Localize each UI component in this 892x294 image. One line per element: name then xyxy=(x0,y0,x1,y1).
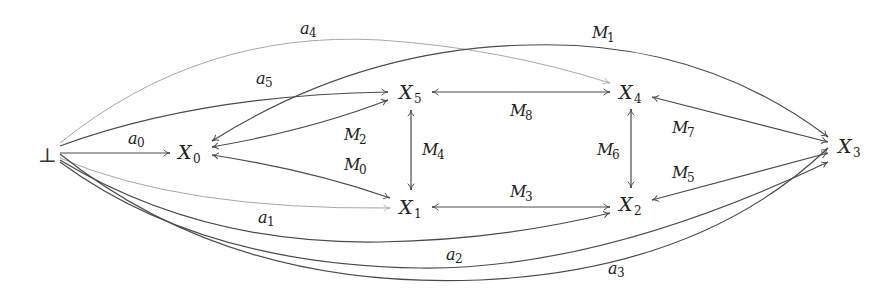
edge-a4 xyxy=(60,39,610,143)
label-a1: a 1 xyxy=(258,208,275,229)
svg-text:5: 5 xyxy=(414,92,422,106)
svg-text:4: 4 xyxy=(309,26,317,40)
svg-text:X: X xyxy=(836,135,853,157)
svg-text:0: 0 xyxy=(137,136,145,150)
svg-text:0: 0 xyxy=(193,152,201,166)
node-X2: X 2 xyxy=(617,193,642,218)
label-a2: a 2 xyxy=(446,245,463,266)
node-X0: X 0 xyxy=(176,141,201,166)
svg-text:4: 4 xyxy=(437,148,445,162)
node-X5: X 5 xyxy=(397,81,422,106)
svg-text:3: 3 xyxy=(525,190,533,204)
svg-text:1: 1 xyxy=(414,207,422,221)
label-M7: M 7 xyxy=(671,118,695,140)
node-X4: X 4 xyxy=(617,81,642,106)
svg-text:2: 2 xyxy=(634,204,642,218)
edge-a3 xyxy=(60,148,828,281)
svg-text:5: 5 xyxy=(265,76,273,90)
label-a4: a 4 xyxy=(300,19,317,40)
label-M1: M 1 xyxy=(591,23,615,45)
svg-text:3: 3 xyxy=(617,266,625,280)
svg-text:X: X xyxy=(617,193,634,215)
svg-text:6: 6 xyxy=(612,148,620,162)
svg-text:5: 5 xyxy=(687,171,695,185)
label-M8: M 8 xyxy=(509,101,533,123)
svg-text:X: X xyxy=(617,81,634,103)
svg-text:0: 0 xyxy=(359,163,367,177)
svg-text:3: 3 xyxy=(853,146,861,160)
label-M6: M 6 xyxy=(596,140,620,162)
edge-bot-x1 xyxy=(60,158,390,208)
svg-text:X: X xyxy=(176,141,193,163)
svg-text:8: 8 xyxy=(525,109,533,123)
label-M3: M 3 xyxy=(509,182,533,204)
label-M0: M 0 xyxy=(343,155,367,177)
node-bottom: ⊥ xyxy=(38,143,57,167)
node-X3: X 3 xyxy=(836,135,861,160)
svg-text:4: 4 xyxy=(634,92,642,106)
svg-text:1: 1 xyxy=(267,215,275,229)
state-diagram: ⊥ X 0 X 1 X 2 X 3 X 4 X 5 a 0 a 1 a 2 a … xyxy=(0,0,892,294)
svg-text:7: 7 xyxy=(687,126,695,140)
label-a0: a 0 xyxy=(128,129,145,150)
label-a5: a 5 xyxy=(256,69,273,90)
node-X1: X 1 xyxy=(397,196,422,221)
svg-text:X: X xyxy=(397,196,414,218)
label-M4: M 4 xyxy=(421,140,445,162)
svg-text:2: 2 xyxy=(359,133,367,147)
edge-a5 xyxy=(60,92,388,146)
label-M2: M 2 xyxy=(343,125,367,147)
edge-a2 xyxy=(60,162,828,268)
label-M5: M 5 xyxy=(671,163,695,185)
svg-text:X: X xyxy=(397,81,414,103)
svg-text:1: 1 xyxy=(607,31,615,45)
label-a3: a 3 xyxy=(608,259,625,280)
svg-text:2: 2 xyxy=(455,252,463,266)
